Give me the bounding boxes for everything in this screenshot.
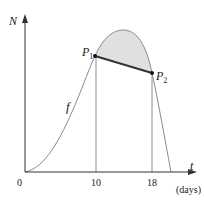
origin-label: 0	[17, 177, 22, 188]
x-unit-label: (days)	[176, 184, 201, 196]
y-axis-label: N	[8, 14, 18, 28]
point-p2	[150, 71, 154, 75]
point-p1	[93, 54, 97, 58]
diagram: N t (days) 0 10 18 f P1 P2	[0, 0, 204, 201]
y-axis-arrow-icon	[22, 14, 28, 23]
tick-label-18: 18	[147, 177, 157, 188]
curve-label-f: f	[66, 99, 72, 114]
tick-label-10: 10	[91, 177, 101, 188]
point-label-p2: P2	[155, 69, 167, 85]
point-label-p1: P1	[81, 45, 93, 61]
shaded-region	[95, 30, 152, 73]
